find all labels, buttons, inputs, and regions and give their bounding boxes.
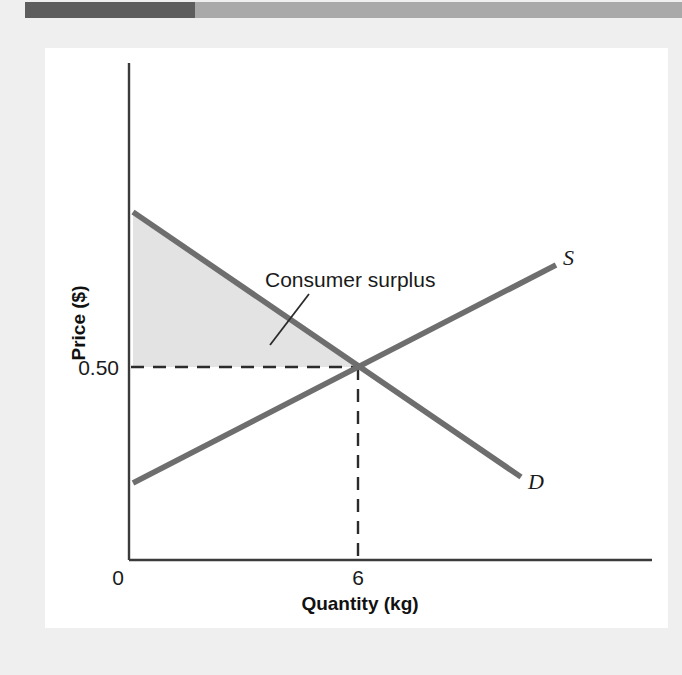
header-bar-light xyxy=(195,2,682,18)
x-tick-label-0: 0 xyxy=(112,566,124,589)
y-axis-title: Price ($) xyxy=(68,286,89,361)
supply-curve-label: S xyxy=(563,245,574,270)
header-bar-dark xyxy=(25,2,195,18)
header-band xyxy=(0,0,682,18)
demand-curve-label: D xyxy=(527,469,544,494)
consumer-surplus-label: Consumer surplus xyxy=(265,268,435,291)
figure-panel: Consumer surplus S D 0.50 0 6 Quantity (… xyxy=(45,48,668,628)
supply-demand-chart: Consumer surplus S D 0.50 0 6 Quantity (… xyxy=(45,48,668,628)
x-axis-title: Quantity (kg) xyxy=(301,593,418,614)
x-tick-label-6: 6 xyxy=(352,566,364,589)
